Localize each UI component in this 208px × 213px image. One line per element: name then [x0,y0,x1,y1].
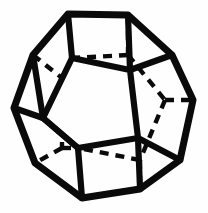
spoke-top-right [128,15,130,70]
spoke-bottom-left [78,148,82,198]
spoke-bottom-right [138,138,140,189]
spoke-top-left [68,14,72,58]
dodecahedron-diagram [0,0,208,213]
figure-canvas [0,0,208,213]
